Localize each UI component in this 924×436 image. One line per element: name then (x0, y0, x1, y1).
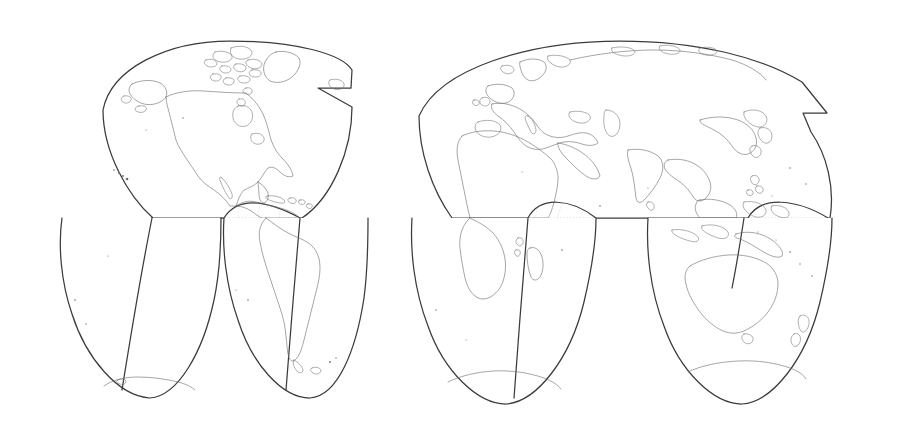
world-map-svg (0, 0, 924, 436)
lobe-south-pacific (60, 218, 221, 398)
lobe-outline-africa-south (412, 218, 596, 404)
lobe-outline-south-pacific-west (60, 218, 221, 398)
lobe-south-america (224, 218, 368, 398)
lobe-outline-afroeurasia-north (419, 41, 831, 218)
map-canvas (0, 0, 924, 436)
lobe-americas-north (90, 40, 362, 218)
lobe-outline-south-america (224, 218, 368, 398)
lobe-outline-americas-north (103, 41, 352, 218)
lobe-africa-south (412, 218, 596, 404)
lobe-afroeurasia-north (406, 40, 834, 218)
lobe-australia (648, 218, 832, 404)
